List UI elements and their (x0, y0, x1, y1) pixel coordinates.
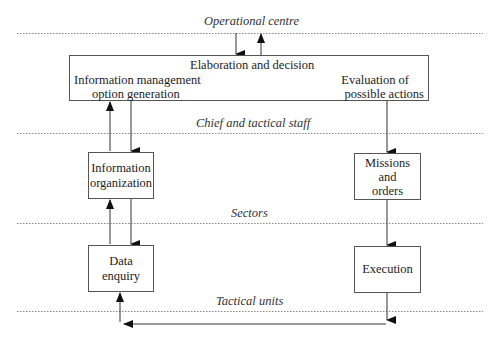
main-box-left-line2: option generation (92, 87, 180, 101)
data-enquiry-line2: enquiry (102, 269, 140, 284)
execution-label: Execution (362, 262, 413, 277)
execution-box: Execution (354, 246, 421, 293)
missions-line2: and (378, 170, 396, 184)
missions-line3: orders (372, 184, 403, 198)
main-box-left-line1: Information management (74, 73, 201, 87)
level-label-tactical: Tactical units (216, 294, 283, 308)
data-enquiry-box: Data enquiry (88, 245, 154, 292)
level-label-chief: Chief and tactical staff (196, 116, 310, 130)
elaboration-decision-box: Elaboration and decision Information man… (69, 55, 429, 101)
missions-orders-box: Missions and orders (354, 153, 421, 200)
data-enquiry-line1: Data (109, 254, 133, 269)
main-box-title: Elaboration and decision (190, 58, 314, 72)
missions-line1: Missions (365, 156, 410, 170)
level-label-operational: Operational centre (204, 14, 299, 28)
main-box-right-line2: possible actions (344, 87, 424, 101)
information-organization-box: Information organization (88, 152, 154, 199)
main-box-right-line1: Evaluation of (341, 73, 409, 87)
level-label-sectors: Sectors (231, 206, 268, 220)
info-org-line1: Information (91, 161, 151, 176)
diagram-connectors (0, 0, 497, 344)
info-org-line2: organization (90, 176, 152, 191)
